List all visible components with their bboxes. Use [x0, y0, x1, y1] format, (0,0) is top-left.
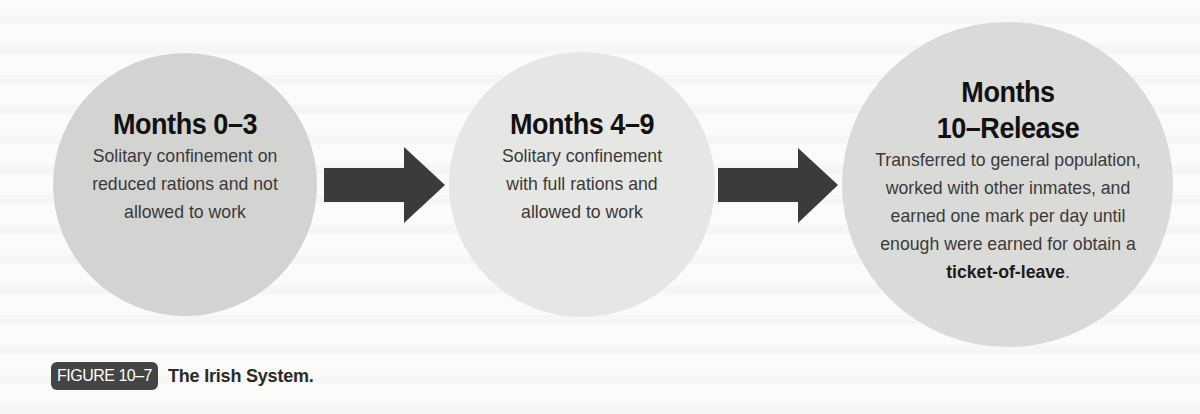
arrow-right-icon	[718, 148, 840, 224]
stage-title-line: Months	[873, 74, 1143, 110]
stage-title: Months 10–Release	[873, 74, 1143, 146]
stage-title: Months 4–9	[488, 106, 677, 142]
stage-description-text: Transferred to general population, worke…	[875, 149, 1141, 254]
ticket-of-leave-term: ticket-of-leave	[946, 261, 1065, 282]
stage-circle-months-10-release: Months 10–Release Transferred to general…	[842, 22, 1173, 347]
stage-description: Transferred to general population, worke…	[868, 146, 1147, 286]
stage-content: Months 10–Release Transferred to general…	[858, 74, 1158, 286]
stage-title-line: Months 0–3	[73, 106, 298, 142]
stage-title: Months 0–3	[73, 106, 298, 142]
stage-description-trailing: .	[1064, 261, 1069, 282]
stage-circle-months-0-3: Months 0–3 Solitary confinement on reduc…	[53, 53, 317, 316]
stage-circle-months-4-9: Months 4–9 Solitary confinement with ful…	[449, 52, 715, 317]
stage-title-line: 10–Release	[873, 110, 1143, 146]
figure-caption: FIGURE 10–7 The Irish System.	[51, 362, 314, 390]
arrow-right-icon	[324, 147, 446, 223]
stage-description: Solitary confinement on reduced rations …	[69, 142, 302, 226]
stage-content: Months 0–3 Solitary confinement on reduc…	[60, 106, 310, 226]
stage-content: Months 4–9 Solitary confinement with ful…	[477, 106, 687, 226]
stage-description: Solitary confinement with full rations a…	[484, 142, 679, 226]
figure-number-badge: FIGURE 10–7	[51, 362, 158, 390]
stage-title-line: Months 4–9	[488, 106, 677, 142]
figure-title: The Irish System.	[168, 366, 314, 387]
